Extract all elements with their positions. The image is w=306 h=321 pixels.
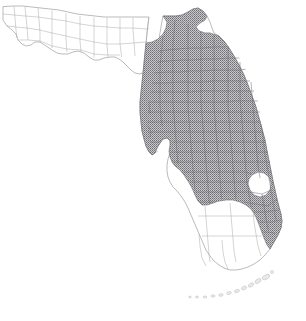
keys-island [248, 282, 255, 288]
keys-island [261, 273, 270, 281]
keys-island [211, 295, 215, 297]
keys-island [219, 293, 224, 296]
keys-island [241, 285, 247, 290]
keys-island [189, 296, 192, 298]
florida-county-map [0, 0, 306, 321]
florida-keys-group [189, 270, 274, 298]
keys-island [234, 289, 240, 294]
keys-island [203, 296, 207, 298]
map-figure [0, 0, 306, 321]
keys-island [254, 278, 262, 285]
keys-island [270, 270, 273, 273]
keys-island [226, 291, 231, 295]
keys-island [195, 296, 198, 298]
